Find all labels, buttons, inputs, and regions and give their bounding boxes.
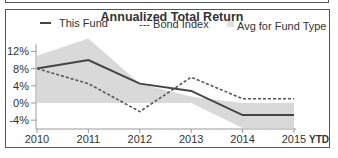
annualized-return-chart: Annualized Total Return This Fund --- Bo… (0, 0, 338, 158)
ytd-label: YTD (309, 134, 329, 145)
y-tick-label: 0% (13, 97, 29, 109)
y-tick-label: 4% (13, 80, 29, 92)
x-tick-label: 2010 (25, 133, 49, 145)
y-ticks: 12%8%4%0%-4% (7, 45, 36, 126)
y-tick-label: 12% (7, 45, 29, 57)
x-tick-label: 2014 (230, 133, 254, 145)
x-ticks: 201020112012201320142015 (25, 129, 306, 145)
legend-avg-swatch (227, 21, 234, 27)
legend-bond: --- Bond Index (139, 18, 209, 30)
x-tick-label: 2015 (282, 133, 306, 145)
y-tick-label: 8% (13, 63, 29, 75)
x-tick-label: 2011 (77, 133, 101, 145)
legend-avg: Avg for Fund Type (237, 20, 326, 32)
x-tick-label: 2012 (128, 133, 152, 145)
x-tick-label: 2013 (179, 133, 203, 145)
plot-area (37, 39, 294, 128)
legend-fund: This Fund (59, 17, 108, 29)
y-tick-label: -4% (9, 114, 29, 126)
